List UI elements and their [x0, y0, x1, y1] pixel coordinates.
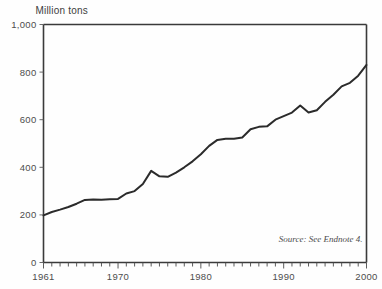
x-axis-tick-label: 1961 — [32, 271, 54, 282]
y-axis-tick-label: 600 — [20, 114, 37, 125]
source-annotation: Source: See Endnote 4. — [279, 234, 363, 244]
y-axis-tick-label: 0 — [31, 257, 37, 268]
y-axis-tick-label: 1,000 — [11, 19, 36, 30]
x-axis-tick-label: 2000 — [355, 271, 377, 282]
x-axis-tick-label: 1980 — [190, 271, 212, 282]
y-axis-title: Million tons — [36, 5, 88, 16]
data-series-line — [44, 65, 367, 215]
chart-container: Million tons02004006008001,0001961197019… — [0, 0, 382, 289]
y-axis-tick-label: 400 — [20, 162, 37, 173]
y-axis-tick-label: 200 — [20, 209, 37, 220]
line-chart: Million tons02004006008001,0001961197019… — [0, 0, 382, 289]
x-axis-tick-label: 1970 — [107, 271, 129, 282]
x-axis-tick-label: 1990 — [273, 271, 295, 282]
y-axis-tick-label: 800 — [20, 67, 37, 78]
